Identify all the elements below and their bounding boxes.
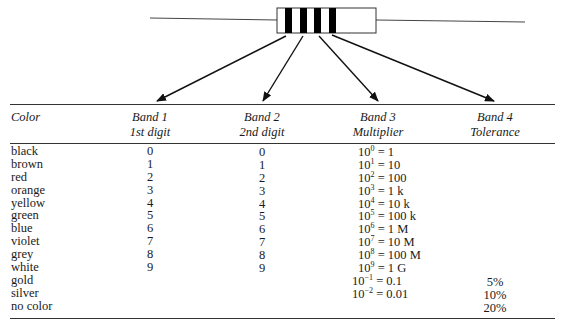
cell-band-2: 2 (247, 172, 277, 185)
cell-tolerance: 20% (470, 302, 520, 315)
band-2-stripe (300, 8, 307, 33)
header-bottom-rule (10, 143, 555, 144)
cell-tolerance (470, 199, 520, 212)
cell-color: orange (11, 184, 52, 197)
cell-color: silver (11, 287, 52, 300)
cell-band-1: 9 (135, 261, 165, 274)
cell-tolerance (470, 263, 520, 276)
header-band-3: Band 3 Multiplier (338, 110, 418, 140)
cell-band-2: 0 (247, 146, 277, 159)
cell-tolerance (470, 147, 520, 160)
column-band-2: 0 1 2 3 4 5 6 7 8 9 (247, 146, 277, 275)
header-band-1: Band 1 1st digit (110, 110, 190, 140)
cell-band-1: 3 (135, 184, 165, 197)
resistor-lead-right (376, 20, 525, 22)
cell-multiplier (355, 301, 421, 314)
cell-tolerance: 5% (470, 276, 520, 289)
header-band-2: Band 2 2nd digit (222, 110, 302, 140)
header-band-4: Band 4 Tolerance (455, 110, 535, 140)
cell-tolerance (470, 224, 520, 237)
column-color: black brown red orange yellow green blue… (11, 145, 52, 313)
column-band-1: 0 1 2 3 4 5 6 7 8 9 (135, 145, 165, 274)
cell-tolerance (470, 237, 520, 250)
cell-tolerance (470, 186, 520, 199)
cell-band-2: 9 (247, 262, 277, 275)
table-top-rule (10, 104, 555, 105)
arrow-band-2 (263, 36, 303, 101)
cell-color: gold (11, 274, 52, 287)
cell-band-2: 3 (247, 185, 277, 198)
band-1-stripe (285, 8, 292, 33)
cell-tolerance: 10% (470, 289, 520, 302)
cell-tolerance (470, 160, 520, 173)
column-band-3-multiplier: 100 = 1 101 = 10 102 = 100 103 = 1 k 104… (355, 146, 421, 314)
cell-band-1: 1 (135, 158, 165, 171)
cell-color: red (11, 171, 52, 184)
band-3-stripe (314, 8, 321, 33)
cell-tolerance (470, 250, 520, 263)
cell-color: black (11, 145, 52, 158)
cell-color: brown (11, 158, 52, 171)
resistor-diagram (0, 0, 578, 110)
header-color: Color (11, 110, 40, 125)
column-band-4-tolerance: 5% 10% 20% (470, 147, 520, 315)
resistor-lead-left (150, 18, 277, 20)
cell-tolerance (470, 211, 520, 224)
cell-band-1: 0 (135, 145, 165, 158)
cell-band-2: 1 (247, 159, 277, 172)
arrow-band-1 (157, 36, 286, 101)
band-4-stripe (329, 8, 336, 33)
arrow-band-4 (332, 35, 494, 101)
cell-color: white (11, 261, 52, 274)
cell-multiplier: 10−2 = 0.01 (352, 288, 421, 301)
arrow-band-3 (319, 36, 378, 101)
table-bottom-rule (10, 318, 555, 319)
cell-color: no color (11, 300, 52, 313)
cell-band-1: 2 (135, 171, 165, 184)
cell-tolerance (470, 173, 520, 186)
